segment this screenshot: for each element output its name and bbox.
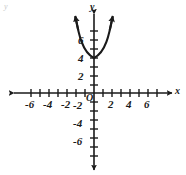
origin-label: O xyxy=(86,93,93,103)
x-tick-label-2: 2 xyxy=(108,99,114,110)
y-tick-label-2: 2 xyxy=(78,71,84,82)
y-tick-label-neg6: -6 xyxy=(73,136,82,147)
x-tick-label-4: 4 xyxy=(126,99,132,110)
y-axis-label: y xyxy=(90,2,94,12)
x-tick-label-6: 6 xyxy=(144,99,150,110)
parabola-left-arrow xyxy=(75,16,78,30)
x-tick-label-neg4: -4 xyxy=(43,99,52,110)
y-tick-label-neg2: -2 xyxy=(73,100,82,111)
x-axis-label: x xyxy=(175,86,180,96)
parabola-right-arrow xyxy=(110,16,113,30)
x-tick-label-neg6: -6 xyxy=(25,99,34,110)
y-tick-label-neg4: -4 xyxy=(73,118,82,129)
graph-canvas xyxy=(0,0,186,175)
y-tick-label-6: 6 xyxy=(78,35,84,46)
x-tick-label-neg2: -2 xyxy=(61,99,70,110)
y-tick-label-4: 4 xyxy=(78,53,84,64)
coordinate-plane-figure: y xyxy=(0,0,186,175)
